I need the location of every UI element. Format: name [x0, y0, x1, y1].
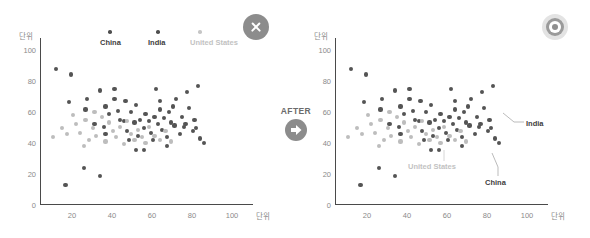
annotation-label-china: China	[485, 178, 506, 187]
data-point	[92, 110, 96, 114]
data-point	[158, 99, 162, 103]
y-axis-unit-label: 단위	[19, 30, 33, 41]
data-point	[192, 118, 196, 122]
legend-label-india: India	[148, 38, 166, 47]
data-point	[178, 132, 182, 136]
data-point	[82, 166, 86, 170]
data-point	[67, 100, 71, 104]
data-point	[112, 87, 116, 91]
after-chart-panel: 단위 단위 0 20 40 60 80 100 20 40 60 80 100 …	[295, 0, 590, 238]
data-point	[123, 99, 127, 103]
y-axis-line	[40, 38, 41, 205]
before-after-comparison: 단위 단위 0 20 40 60 80 100 20 40 60 80 100 …	[0, 0, 590, 238]
data-point	[112, 97, 116, 101]
data-point	[158, 107, 162, 111]
arrow-right-circle-icon[interactable]	[285, 119, 307, 141]
leader-line-china	[492, 153, 498, 176]
data-point	[158, 138, 162, 142]
after-label: AFTER	[273, 106, 319, 116]
annotation-label-india: India	[526, 119, 544, 128]
after-scatter-chart: 단위 단위 0 20 40 60 80 100 20 40 60 80 100 …	[295, 0, 590, 238]
x-tick-80: 80	[180, 211, 204, 220]
data-point	[132, 120, 136, 124]
data-point	[202, 141, 206, 145]
data-point	[69, 72, 73, 76]
data-point	[172, 123, 176, 127]
x-tick-60: 60	[140, 211, 164, 220]
data-point	[98, 88, 102, 92]
data-point	[132, 138, 136, 142]
data-point	[51, 135, 55, 139]
data-point	[162, 116, 166, 120]
data-point	[169, 139, 173, 143]
data-point	[60, 126, 64, 130]
annotation-label-united-states: United States	[408, 162, 456, 171]
data-point	[85, 97, 89, 101]
data-point	[125, 119, 129, 123]
data-point	[136, 128, 140, 132]
before-scatter-chart: 단위 단위 0 20 40 60 80 100 20 40 60 80 100	[0, 0, 295, 238]
x-tick-40: 40	[100, 211, 124, 220]
data-point	[142, 148, 146, 152]
legend-label-china: China	[100, 38, 121, 47]
legend-swatch-china	[108, 30, 112, 34]
data-point	[152, 134, 156, 138]
after-transition-marker: AFTER	[273, 106, 319, 141]
data-point	[78, 131, 82, 135]
data-point	[71, 113, 75, 117]
arrow-right-icon	[285, 119, 307, 141]
data-point	[183, 122, 187, 126]
data-point	[83, 118, 87, 122]
data-point	[143, 141, 147, 145]
data-point	[65, 132, 69, 136]
y-tick-20: 20	[14, 170, 36, 179]
data-point	[129, 132, 133, 136]
data-point	[140, 135, 144, 139]
y-tick-60: 60	[14, 108, 36, 117]
y-tick-100: 100	[14, 46, 36, 55]
data-point	[103, 139, 107, 143]
data-point	[111, 129, 115, 133]
data-point	[118, 125, 122, 129]
data-point	[147, 125, 151, 129]
data-point	[54, 67, 58, 71]
x-axis-unit-label: 단위	[256, 210, 270, 221]
data-point	[122, 142, 126, 146]
data-point	[63, 183, 67, 187]
data-point	[98, 174, 102, 178]
data-point	[185, 90, 189, 94]
x-tick-20: 20	[60, 211, 84, 220]
legend-swatch-united-states	[198, 30, 202, 34]
data-point	[154, 87, 158, 91]
data-point	[83, 107, 87, 111]
legend-swatch-india	[156, 30, 160, 34]
data-point	[194, 126, 198, 130]
x-tick-100: 100	[220, 211, 244, 220]
data-point	[134, 148, 138, 152]
annotation-leader-lines	[295, 0, 590, 238]
data-point	[87, 138, 91, 142]
data-point	[138, 118, 142, 122]
data-point	[151, 138, 155, 142]
data-point	[91, 126, 95, 130]
data-point	[165, 144, 169, 148]
leader-line-india	[503, 113, 524, 122]
y-tick-40: 40	[14, 139, 36, 148]
data-point	[163, 129, 167, 133]
data-point	[129, 110, 133, 114]
data-point	[134, 103, 138, 107]
data-point	[82, 144, 86, 148]
data-point	[102, 125, 106, 129]
data-point	[171, 104, 175, 108]
data-point	[114, 135, 118, 139]
data-point	[100, 115, 104, 119]
y-tick-0: 0	[14, 201, 36, 210]
data-point	[107, 112, 111, 116]
data-point	[143, 112, 147, 116]
data-point	[94, 134, 98, 138]
data-point	[174, 97, 178, 101]
data-point	[107, 120, 111, 124]
y-tick-80: 80	[14, 77, 36, 86]
data-point	[196, 84, 200, 88]
data-point	[103, 104, 107, 108]
